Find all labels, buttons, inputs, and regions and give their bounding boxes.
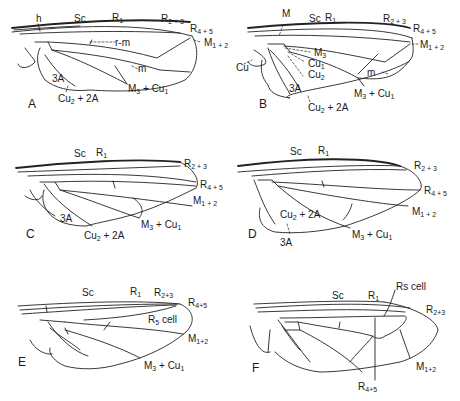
label-a-r45: R4 + 5 — [190, 24, 213, 37]
label-b-m: M — [282, 9, 290, 19]
wing-a — [12, 20, 200, 92]
panel-letter-e: E — [18, 356, 26, 368]
label-e-r23: R2+3 — [154, 288, 173, 301]
label-d-3a: 3A — [280, 238, 292, 248]
label-a-m12: M1 + 2 — [204, 38, 228, 51]
label-c-m3cu1: M3 + Cu1 — [141, 220, 181, 233]
label-b-cu: Cu — [236, 63, 249, 73]
label-a-sc: Sc — [74, 14, 86, 24]
panel-letter-a: A — [28, 98, 36, 110]
label-f-r23: R2+3 — [426, 305, 445, 318]
wing-e — [18, 302, 192, 369]
label-a-rm: r-m — [115, 38, 130, 48]
label-d-r45: R4 + 5 — [424, 186, 447, 199]
panel-letter-d: D — [248, 228, 257, 240]
label-a-m: m — [138, 64, 146, 74]
wing-venation-drawings — [0, 0, 460, 401]
panel-letter-f: F — [252, 362, 259, 374]
label-c-3a: 3A — [60, 214, 72, 224]
label-c-sc: Sc — [74, 149, 86, 159]
label-d-m3cu1: M3 + Cu1 — [352, 230, 392, 243]
label-b-r1: R1 — [325, 13, 336, 26]
label-e-sc: Sc — [82, 288, 94, 298]
label-b-r45: R4 + 5 — [413, 24, 436, 37]
label-a-3a: 3A — [52, 74, 64, 84]
label-c-m12: M1 + 2 — [193, 196, 217, 209]
label-e-r5cell: R5 cell — [148, 315, 177, 328]
label-e-r45: R4+5 — [188, 298, 207, 311]
label-e-r1: R1 — [130, 287, 141, 300]
label-d-r1: R1 — [318, 146, 329, 159]
label-b-m: m — [367, 68, 375, 78]
label-c-cu2a2: Cu2 + 2A — [84, 231, 124, 244]
label-e-m3cu1: M3 + Cu1 — [144, 361, 184, 374]
label-c-r1: R1 — [96, 148, 107, 161]
panel-letter-c: C — [26, 228, 35, 240]
label-d-sc: Sc — [290, 147, 302, 157]
label-c-r23: R2 + 3 — [184, 159, 207, 172]
wing-f — [250, 290, 438, 380]
label-b-cu2: Cu2 — [308, 70, 325, 83]
wing-d — [238, 159, 421, 234]
label-b-m3cu1: M3 + Cu1 — [354, 89, 394, 102]
label-d-cu2a2: Cu2 + 2A — [280, 210, 320, 223]
label-d-r23: R2 + 3 — [414, 161, 437, 174]
label-f-m12: M1+2 — [416, 362, 436, 375]
label-a-r1: R1 — [112, 13, 123, 26]
label-e-m12: M1+2 — [188, 334, 208, 347]
label-b-cu2a2: Cu2 + 2A — [308, 103, 348, 116]
label-d-m12: M1 + 2 — [412, 207, 436, 220]
panel-letter-b: B — [259, 98, 267, 110]
label-b-r23: R2 + 3 — [383, 14, 406, 27]
label-a-cu2a2: Cu2 + 2A — [58, 94, 98, 107]
label-f-sc: Sc — [332, 291, 344, 301]
label-a-r23: R2 + 3 — [161, 14, 184, 27]
label-b-m12: M1 + 2 — [420, 40, 444, 53]
label-c-r45: R4 + 5 — [200, 180, 223, 193]
label-f-rscell: Rs cell — [396, 282, 426, 292]
label-f-r1: R1 — [368, 291, 379, 304]
wing-c — [16, 160, 197, 226]
label-f-r45: R4+5 — [358, 382, 377, 395]
label-a-m3cu1: M3 + Cu1 — [128, 84, 168, 97]
label-b-3a: 3A — [289, 84, 301, 94]
label-b-sc: Sc — [309, 14, 321, 24]
label-a-h: h — [36, 14, 42, 24]
